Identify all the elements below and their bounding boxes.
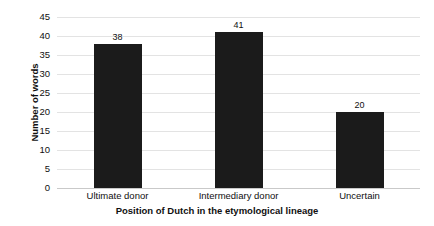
y-axis-tick-label: 25 bbox=[10, 88, 50, 98]
y-axis-tick-label: 40 bbox=[10, 31, 50, 41]
bar[interactable] bbox=[336, 112, 384, 188]
y-axis-tick-label: 5 bbox=[10, 164, 50, 174]
y-axis-tick-label: 10 bbox=[10, 145, 50, 155]
bar-chart: Number of words 45 40 35 30 25 20 15 10 … bbox=[0, 0, 434, 226]
y-axis-tick-label: 20 bbox=[10, 107, 50, 117]
bar-series: 38 41 20 bbox=[57, 17, 420, 188]
bar-group: 20 bbox=[336, 17, 384, 188]
bar[interactable] bbox=[94, 44, 142, 188]
plot-area: 38 41 20 bbox=[57, 17, 420, 188]
y-axis-tick-label: 35 bbox=[10, 50, 50, 60]
y-axis-tick-label: 15 bbox=[10, 126, 50, 136]
x-axis-line bbox=[57, 188, 420, 189]
bar[interactable] bbox=[215, 32, 263, 188]
bar-value-label: 41 bbox=[200, 20, 278, 30]
bar-group: 38 bbox=[94, 17, 142, 188]
y-axis-tick-label: 45 bbox=[10, 12, 50, 22]
bar-value-label: 38 bbox=[79, 32, 157, 42]
bar-value-label: 20 bbox=[321, 100, 399, 110]
x-axis-title: Position of Dutch in the etymological li… bbox=[0, 205, 434, 216]
x-axis-tick-labels: Ultimate donor Intermediary donor Uncert… bbox=[57, 190, 420, 206]
x-axis-tick-label: Uncertain bbox=[280, 190, 434, 201]
bar-group: 41 bbox=[215, 17, 263, 188]
y-axis-tick-label: 30 bbox=[10, 69, 50, 79]
